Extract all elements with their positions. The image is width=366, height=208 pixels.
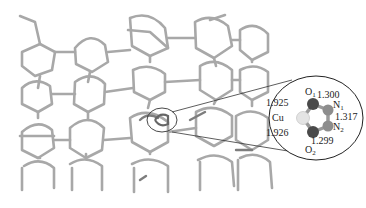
cu-atom (297, 112, 310, 125)
bond-cu-o2: 1.926 (266, 128, 289, 138)
framework-sticks (20, 15, 272, 192)
n2-atom (323, 121, 334, 132)
bond-cu-o1: 1.925 (266, 98, 289, 108)
zeolite-framework-diagram (0, 0, 366, 208)
atom-label-o1: O1 (305, 87, 316, 99)
atom-label-n2: N2 (333, 122, 344, 134)
atom-label-cu: Cu (272, 113, 284, 123)
atom-label-o2: O2 (305, 145, 316, 157)
n1-atom (323, 105, 334, 116)
